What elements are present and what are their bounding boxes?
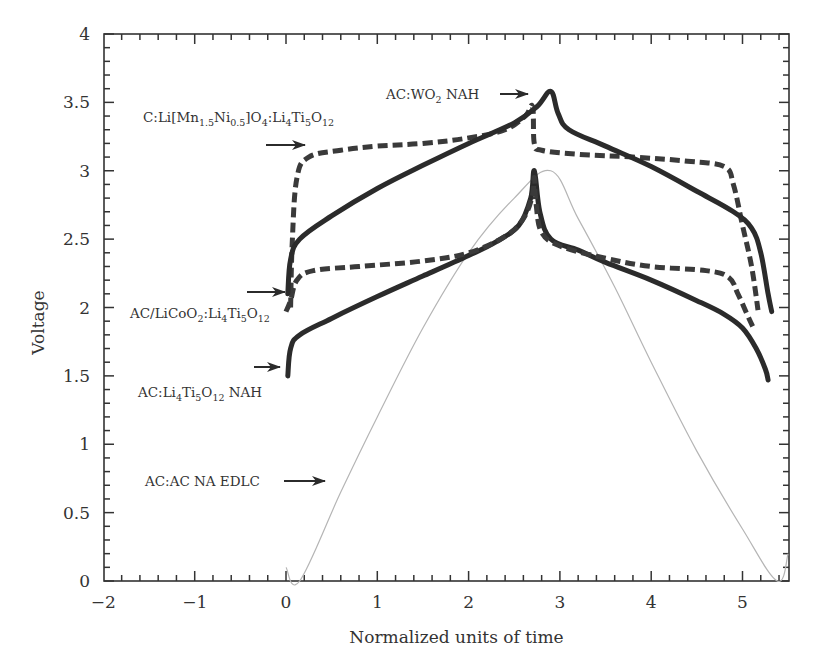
plot-series: [286, 91, 788, 585]
x-tick-label: −2: [91, 592, 116, 612]
y-tick-label: 1: [79, 434, 90, 454]
x-tick-label: 4: [646, 592, 657, 612]
annotation-lmno: C:Li[Mn1.5Ni0.5]O4:Li4Ti5O12: [143, 109, 334, 128]
y-tick-label: 3.5: [63, 92, 90, 112]
x-tick-label: 0: [281, 592, 292, 612]
series-line-ac-ac-na-edlc: [286, 170, 788, 585]
series-line-ac-li4ti5o12-nah: [288, 171, 768, 380]
y-axis-title: Voltage: [28, 290, 48, 355]
x-tick-label: 5: [737, 592, 748, 612]
y-tick-label: 2.5: [63, 229, 90, 249]
x-tick-label: 3: [554, 592, 565, 612]
annotation-lto-nah: AC:Li4Ti5O12 NAH: [137, 384, 262, 403]
series-annotations: AC:WO2 NAH C:Li[Mn1.5Ni0.5]O4:Li4Ti5O12 …: [129, 86, 528, 489]
series-line-c-li-mn1-5ni0-5-o4-li4ti5o12: [291, 105, 758, 310]
y-tick-label: 0: [79, 571, 90, 591]
x-axis-title: Normalized units of time: [349, 627, 563, 647]
x-tick-label: 1: [372, 592, 383, 612]
annotation-wo2: AC:WO2 NAH: [385, 86, 479, 105]
voltage-time-chart: −2−101234500.511.522.533.54Normalized un…: [0, 0, 817, 671]
y-tick-label: 2: [79, 298, 90, 318]
y-tick-label: 4: [79, 24, 90, 44]
x-tick-label: 2: [463, 592, 474, 612]
y-tick-label: 0.5: [63, 503, 90, 523]
y-tick-label: 1.5: [63, 366, 90, 386]
x-tick-label: −1: [182, 592, 207, 612]
annotation-licoo2: AC/LiCoO2:Li4Ti5O12: [129, 305, 270, 324]
y-tick-label: 3: [79, 161, 90, 181]
annotation-edlc: AC:AC NA EDLC: [144, 473, 260, 489]
